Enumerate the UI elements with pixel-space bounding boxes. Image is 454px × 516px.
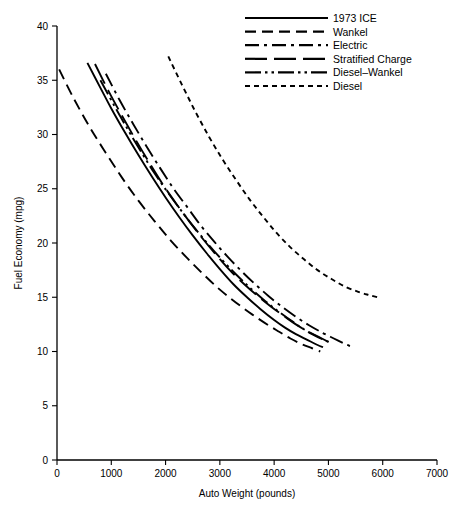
fuel-economy-vs-weight-chart: 0510152025303540 01000200030004000500060… (0, 0, 454, 516)
series-line-electric (106, 74, 350, 346)
x-axis-ticks: 01000200030004000500060007000 (54, 460, 448, 479)
legend-label: Diesel (333, 80, 362, 92)
x-axis-title: Auto Weight (pounds) (199, 488, 296, 499)
series-line-wankel (59, 69, 320, 351)
y-tick-label: 0 (42, 455, 48, 466)
series-line-diesel-wankel (100, 80, 331, 343)
legend-label: Wankel (333, 26, 368, 38)
y-tick-label: 15 (37, 292, 49, 303)
x-tick-label: 5000 (317, 468, 340, 479)
y-tick-label: 30 (37, 129, 49, 140)
x-tick-label: 2000 (154, 468, 177, 479)
x-tick-label: 4000 (263, 468, 286, 479)
y-axis-ticks: 0510152025303540 (37, 21, 57, 466)
chart-figure: 0510152025303540 01000200030004000500060… (0, 0, 454, 516)
legend-label: Electric (333, 39, 367, 51)
y-tick-label: 5 (42, 400, 48, 411)
x-tick-label: 3000 (209, 468, 232, 479)
x-tick-label: 0 (54, 468, 60, 479)
y-tick-label: 35 (37, 75, 49, 86)
legend-label: Stratified Charge (333, 53, 412, 65)
series-line-stratified-charge (95, 64, 334, 344)
x-tick-label: 1000 (100, 468, 123, 479)
legend-label: 1973 ICE (333, 12, 377, 24)
y-tick-label: 25 (37, 183, 49, 194)
y-tick-label: 40 (37, 21, 49, 32)
series-line-diesel (168, 56, 377, 297)
chart-legend: 1973 ICEWankelElectricStratified ChargeD… (245, 12, 412, 92)
legend-label: Diesel–Wankel (333, 66, 403, 78)
data-curves (59, 56, 377, 351)
y-axis-title: Fuel Economy (mpg) (13, 197, 24, 290)
y-tick-label: 10 (37, 346, 49, 357)
x-tick-label: 6000 (372, 468, 395, 479)
x-tick-label: 7000 (426, 468, 449, 479)
y-tick-label: 20 (37, 238, 49, 249)
